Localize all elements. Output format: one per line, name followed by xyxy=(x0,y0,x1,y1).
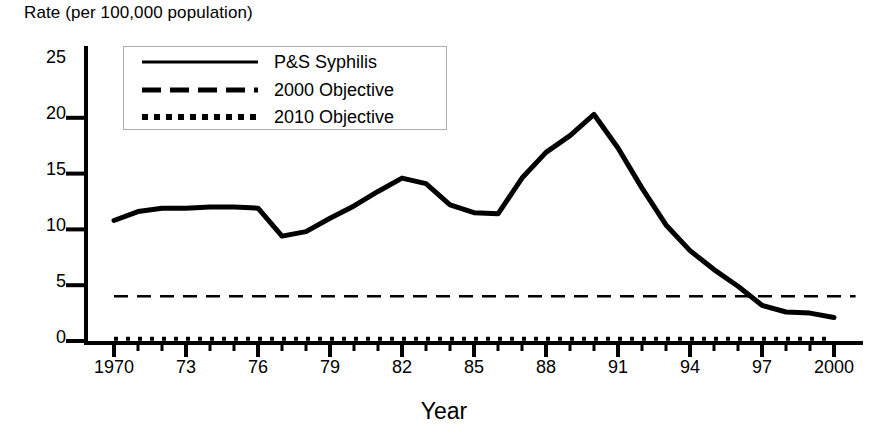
legend-item-2000-objective: 2000 Objective xyxy=(124,76,448,104)
legend: P&S Syphilis 2000 Objective 2010 Objecti… xyxy=(123,46,447,130)
legend-item-2010-objective: 2010 Objective xyxy=(124,103,448,131)
legend-swatch-solid xyxy=(138,48,262,76)
legend-item-ps-syphilis: P&S Syphilis xyxy=(124,48,448,76)
legend-swatch-dashed xyxy=(138,76,262,104)
legend-label-2010-objective: 2010 Objective xyxy=(274,103,394,131)
series-ps-syphilis-line xyxy=(114,114,834,317)
legend-label-ps-syphilis: P&S Syphilis xyxy=(274,48,377,76)
x-major-tick-marks xyxy=(114,345,834,357)
legend-label-2000-objective: 2000 Objective xyxy=(274,76,394,104)
legend-swatch-dotted xyxy=(138,103,262,131)
